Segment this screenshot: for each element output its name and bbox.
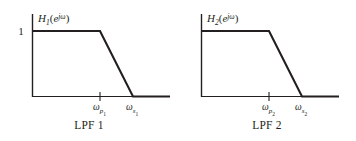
- y-tick-label-one: 1: [18, 25, 24, 37]
- x-tick-label-omega-s1: ωs1: [126, 102, 138, 117]
- plot-lpf-2: H2(ejω) ωp2 ωs2 LPF 2: [178, 0, 356, 141]
- x-tick-label-omega-s2: ωs2: [295, 102, 307, 117]
- magnitude-response-curve: [33, 31, 171, 97]
- x-tick-label-omega-p1: ωp1: [93, 102, 106, 117]
- omega-p1-sub-index: 1: [103, 111, 106, 117]
- omega-s2-sub-index: 2: [304, 111, 307, 117]
- omega-s1-sub-index: 1: [135, 111, 138, 117]
- caption-lpf-1: LPF 1: [0, 119, 178, 131]
- h2-paren-close: ): [235, 12, 239, 25]
- caption-lpf-2: LPF 2: [178, 119, 356, 131]
- figure-container: H1(ejω) 1 ωp1 ωs1 LPF 1: [0, 0, 356, 141]
- h1-paren-close: ): [66, 12, 70, 25]
- y-axis-label-h2: H2(ejω): [206, 12, 239, 28]
- y-axis-label-h1: H1(ejω): [37, 12, 70, 28]
- x-tick-label-omega-p2: ωp2: [262, 102, 275, 117]
- omega-p2-sub-index: 2: [272, 111, 275, 117]
- magnitude-response-curve: [202, 31, 340, 97]
- plot-lpf-1: H1(ejω) 1 ωp1 ωs1 LPF 1: [0, 0, 178, 141]
